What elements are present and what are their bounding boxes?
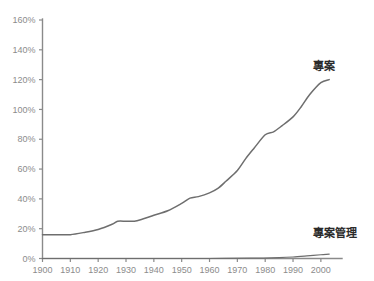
series-annotations: 專案專案管理 — [313, 59, 357, 240]
y-tick-label: 120% — [12, 75, 35, 85]
y-tick-label: 160% — [12, 15, 35, 25]
line-chart: 0%20%40%60%80%100%120%140%160% 190019101… — [0, 0, 374, 281]
x-tick-label: 1950 — [172, 265, 192, 275]
series-label-1: 專案 — [313, 59, 336, 73]
x-tick-label: 1990 — [283, 265, 303, 275]
series-label-2: 專案管理 — [313, 226, 357, 240]
series-lines — [43, 80, 330, 259]
y-tick-label: 20% — [17, 224, 35, 234]
x-tick-label: 1960 — [200, 265, 220, 275]
y-axis-tick-labels: 0%20%40%60%80%100%120%140%160% — [12, 15, 35, 264]
x-axis-tick-labels: 1900191019201930194019501960197019801990… — [32, 265, 330, 275]
y-tick-label: 80% — [17, 134, 35, 144]
x-tick-label: 1920 — [88, 265, 108, 275]
y-tick-label: 0% — [22, 254, 35, 264]
x-tick-label: 1980 — [255, 265, 275, 275]
x-axis-group: 1900191019201930194019501960197019801990… — [32, 259, 342, 275]
y-tick-label: 140% — [12, 45, 35, 55]
x-tick-label: 1970 — [227, 265, 247, 275]
x-tick-label: 2000 — [311, 265, 331, 275]
x-tick-label: 1910 — [60, 265, 80, 275]
y-axis-group: 0%20%40%60%80%100%120%140%160% — [12, 15, 42, 264]
y-tick-label: 40% — [17, 194, 35, 204]
y-tick-label: 60% — [17, 164, 35, 174]
x-tick-label: 1930 — [116, 265, 136, 275]
chart-container: 0%20%40%60%80%100%120%140%160% 190019101… — [0, 0, 374, 281]
y-tick-label: 100% — [12, 105, 35, 115]
series-line-1 — [43, 80, 330, 235]
x-tick-label: 1900 — [32, 265, 52, 275]
x-tick-label: 1940 — [144, 265, 164, 275]
